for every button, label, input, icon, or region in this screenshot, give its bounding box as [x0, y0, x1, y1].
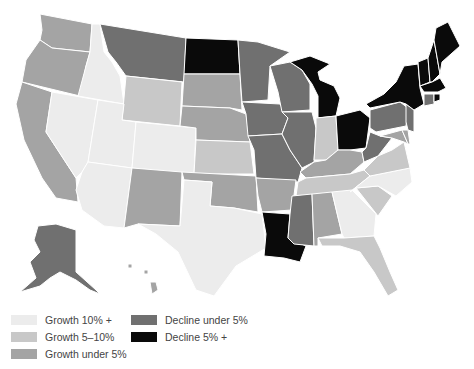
state-ND	[184, 38, 240, 74]
state-WY	[122, 76, 182, 126]
state-NY	[366, 64, 424, 110]
legend-label: Growth under 5%	[45, 348, 127, 360]
legend-swatch	[131, 332, 157, 342]
legend-item-growth-under-5: Growth under 5%	[11, 347, 127, 361]
state-NM	[124, 168, 182, 228]
us-choropleth-map	[0, 0, 474, 310]
legend-label: Growth 10% +	[45, 314, 112, 326]
legend-label: Decline under 5%	[165, 314, 248, 326]
legend-item-growth-10-plus: Growth 10% +	[11, 313, 112, 327]
state-KS	[194, 140, 254, 174]
legend-swatch	[131, 315, 157, 325]
state-FL	[318, 236, 398, 296]
state-HI-islands	[128, 264, 132, 268]
state-OH	[336, 110, 370, 150]
state-CT	[424, 94, 434, 106]
legend: Growth 10% + Growth 5–10% Growth under 5…	[11, 313, 311, 367]
state-MS	[288, 194, 314, 246]
state-HI-islands-2	[144, 270, 148, 274]
legend-label: Growth 5–10%	[45, 331, 114, 343]
state-RI	[434, 94, 440, 102]
state-HI	[150, 282, 158, 294]
legend-swatch	[11, 315, 37, 325]
legend-swatch	[11, 332, 37, 342]
legend-item-decline-5-plus: Decline 5% +	[131, 330, 227, 344]
legend-item-decline-under-5: Decline under 5%	[131, 313, 248, 327]
state-AR	[256, 178, 296, 212]
legend-swatch	[11, 349, 37, 359]
state-CO	[132, 122, 196, 174]
legend-label: Decline 5% +	[165, 331, 227, 343]
state-AZ	[76, 162, 132, 228]
state-AK	[20, 224, 100, 294]
state-SD	[182, 74, 242, 110]
legend-item-growth-5-10: Growth 5–10%	[11, 330, 114, 344]
